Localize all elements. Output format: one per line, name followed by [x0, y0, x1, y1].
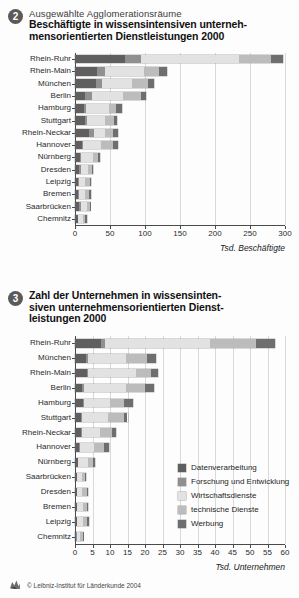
- stacked-bar[interactable]: [75, 215, 87, 224]
- bar-row[interactable]: Rhein-Neckar: [75, 129, 285, 138]
- bar-segment-wirtschaftsdienste: [94, 129, 105, 138]
- bar-row[interactable]: Chemnitz: [75, 215, 285, 224]
- bar-segment-datenverarbeitung: [75, 55, 125, 64]
- bar-segment-wirtschaftsdienste: [105, 67, 144, 76]
- bar-row[interactable]: Rhein-Ruhr: [75, 55, 285, 64]
- legend-item[interactable]: Forschung und Entwicklung: [178, 476, 289, 487]
- bar-segment-datenverarbeitung: [75, 67, 97, 76]
- panel1-title-line1: Beschäftigte in wissensintensiven untern…: [29, 19, 292, 31]
- bar-row[interactable]: Nürnberg: [75, 153, 285, 162]
- legend-item[interactable]: technische Dienste: [178, 504, 289, 515]
- stacked-bar[interactable]: [75, 190, 91, 199]
- stacked-bar[interactable]: [75, 178, 91, 187]
- bar-segment-werbung: [83, 532, 84, 541]
- bar-row[interactable]: Rhein-Ruhr: [75, 339, 285, 348]
- chart-beschaeftigte: Rhein-RuhrRhein-MainMünchenBerlinHamburg…: [0, 53, 299, 258]
- bar-row[interactable]: Hannover: [75, 141, 285, 150]
- bar-row[interactable]: Stuttgart: [75, 413, 285, 422]
- bar-segment-werbung: [87, 503, 88, 512]
- stacked-bar[interactable]: [75, 369, 158, 378]
- stacked-bar[interactable]: [75, 202, 90, 211]
- bar-row[interactable]: Rhein-Main: [75, 67, 285, 76]
- bar-segment-werbung: [116, 104, 122, 113]
- bar-row[interactable]: Berlin: [75, 92, 285, 101]
- bar-segment-wirtschaftsdienste: [82, 428, 100, 437]
- bar-row[interactable]: Hannover: [75, 443, 285, 452]
- bar-segment-technische-dienste: [126, 384, 145, 393]
- bar-segment-werbung: [151, 369, 158, 378]
- bar-segment-wirtschaftsdienste: [81, 165, 88, 174]
- stacked-bar[interactable]: [75, 104, 122, 113]
- bar-row[interactable]: München: [75, 79, 285, 88]
- bar-row[interactable]: Stuttgart: [75, 116, 285, 125]
- stacked-bar[interactable]: [75, 92, 146, 101]
- x-tick-label: 50: [106, 229, 115, 238]
- category-label: Hamburg: [38, 399, 71, 407]
- x-tick-label: 20: [141, 548, 150, 557]
- stacked-bar[interactable]: [75, 339, 275, 348]
- bar-row[interactable]: Hamburg: [75, 104, 285, 113]
- bar-segment-werbung: [90, 178, 91, 187]
- stacked-bar[interactable]: [75, 116, 117, 125]
- legend-item[interactable]: Werbung: [178, 518, 289, 529]
- stacked-bar[interactable]: [75, 79, 154, 88]
- bar-segment-werbung: [92, 165, 93, 174]
- bar-segment-werbung: [90, 202, 91, 211]
- x-tick-label: 250: [243, 229, 256, 238]
- bar-row[interactable]: Rhein-Neckar: [75, 428, 285, 437]
- stacked-bar[interactable]: [75, 503, 88, 512]
- bar-row[interactable]: Dresden: [75, 165, 285, 174]
- x-tick-label: 35: [193, 548, 202, 557]
- category-label: Nürnberg: [38, 153, 71, 161]
- x-tick-label: 55: [263, 548, 272, 557]
- category-label: Hannover: [36, 141, 71, 149]
- stacked-bar[interactable]: [75, 458, 95, 467]
- bar-segment-technische-dienste: [132, 79, 147, 88]
- bar-row[interactable]: Bremen: [75, 190, 285, 199]
- stacked-bar[interactable]: [75, 443, 109, 452]
- category-label: Leipzig: [46, 178, 71, 186]
- legend-swatch: [178, 464, 186, 472]
- stacked-bar[interactable]: [75, 399, 133, 408]
- bar-row[interactable]: Hamburg: [75, 399, 285, 408]
- bar-row[interactable]: Saarbrücken: [75, 202, 285, 211]
- bar-segment-technische-dienste: [100, 428, 112, 437]
- legend-item[interactable]: Wirtschaftsdienste: [178, 490, 289, 501]
- bar-segment-wirtschaftsdienste: [92, 92, 124, 101]
- category-label: München: [38, 80, 71, 88]
- bar-segment-datenverarbeitung: [75, 369, 87, 378]
- bar-segment-werbung: [114, 116, 117, 125]
- stacked-bar[interactable]: [75, 153, 100, 162]
- bar-segment-werbung: [98, 153, 100, 162]
- stacked-bar[interactable]: [75, 488, 88, 497]
- bar-row[interactable]: Leipzig: [75, 178, 285, 187]
- x-tick-label: 150: [173, 229, 186, 238]
- bar-segment-technische-dienste: [210, 339, 256, 348]
- bar-segment-datenverarbeitung: [75, 339, 101, 348]
- stacked-bar[interactable]: [75, 517, 89, 526]
- category-label: Stuttgart: [41, 414, 71, 422]
- bar-row[interactable]: Berlin: [75, 384, 285, 393]
- stacked-bar[interactable]: [75, 428, 116, 437]
- stacked-bar[interactable]: [75, 165, 93, 174]
- x-tick-label: 40: [211, 548, 220, 557]
- bar-segment-werbung: [271, 55, 283, 64]
- category-label: Dresden: [41, 166, 71, 174]
- stacked-bar[interactable]: [75, 141, 118, 150]
- stacked-bar[interactable]: [75, 55, 283, 64]
- stacked-bar[interactable]: [75, 384, 154, 393]
- bar-row[interactable]: München: [75, 354, 285, 363]
- category-label: Leipzig: [46, 518, 71, 526]
- bar-row[interactable]: Rhein-Main: [75, 369, 285, 378]
- legend-item[interactable]: Datenverarbeitung: [178, 462, 289, 473]
- gridline: [163, 336, 164, 544]
- stacked-bar[interactable]: [75, 532, 83, 541]
- stacked-bar[interactable]: [75, 473, 86, 482]
- stacked-bar[interactable]: [75, 129, 118, 138]
- stacked-bar[interactable]: [75, 413, 128, 422]
- stacked-bar[interactable]: [75, 67, 167, 76]
- stacked-bar[interactable]: [75, 354, 156, 363]
- bar-row[interactable]: Chemnitz: [75, 532, 285, 541]
- chart-legend: DatenverarbeitungForschung und Entwicklu…: [178, 462, 289, 532]
- gridline: [93, 336, 94, 544]
